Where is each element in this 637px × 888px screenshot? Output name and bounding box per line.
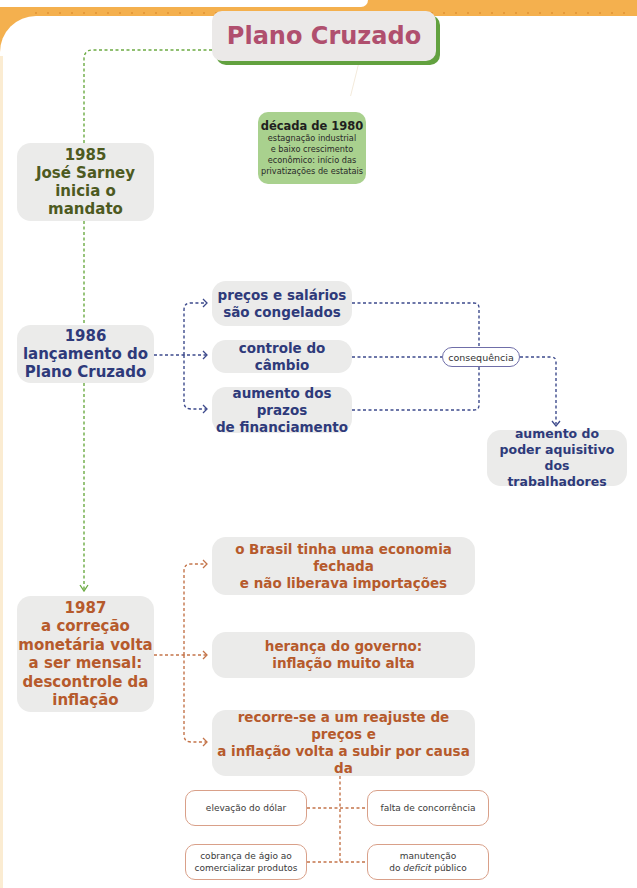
timeline-1986: 1986 lançamento do Plano Cruzado <box>17 325 154 383</box>
timeline-1987-text: 1987 a correção monetária volta a ser me… <box>18 599 152 710</box>
factor-cobranca-agio: cobrança de ágio ao comercializar produt… <box>185 844 307 880</box>
cause-text: recorre-se a um reajuste de preços e a i… <box>212 709 475 777</box>
measure-controle-cambio: controle do câmbio <box>212 340 352 373</box>
result-text: aumento do poder aquisitivo dos trabalha… <box>487 426 627 490</box>
consequence-label: consequência <box>442 347 520 367</box>
consequence-text: consequência <box>448 352 513 363</box>
factor-line2-suffix: público <box>431 863 466 873</box>
measure-text: aumento dos prazos de financiamento <box>212 385 352 436</box>
measure-text: preços e salários são congelados <box>218 287 347 321</box>
cause-text: herança do governo: inflação muito alta <box>265 638 422 672</box>
note-decada-1980: década de 1980 estagnação industrial e b… <box>258 112 366 184</box>
measure-text: controle do câmbio <box>212 340 352 374</box>
orange-arrow-icons <box>203 560 207 746</box>
cause-economia-fechada: o Brasil tinha uma economia fechada e nã… <box>212 537 475 595</box>
page-title-text: Plano Cruzado <box>227 22 421 50</box>
timeline-1986-text: 1986 lançamento do Plano Cruzado <box>23 327 148 381</box>
page-title: Plano Cruzado <box>212 11 436 61</box>
cause-heranca-governo: herança do governo: inflação muito alta <box>212 632 475 678</box>
measure-prazos-financiamento: aumento dos prazos de financiamento <box>212 387 352 433</box>
measure-precos-salarios: preços e salários são congelados <box>212 281 352 326</box>
factor-text: cobrança de ágio ao comercializar produt… <box>195 850 298 874</box>
cause-text: o Brasil tinha uma economia fechada e nã… <box>212 541 475 592</box>
factor-line2-prefix: do <box>389 863 403 873</box>
timeline-1987: 1987 a correção monetária volta a ser me… <box>17 596 154 712</box>
factor-text: falta de concorrência <box>380 802 475 814</box>
timeline-1985-text: 1985 José Sarney inicia o mandato <box>17 146 154 218</box>
timeline-1985: 1985 José Sarney inicia o mandato <box>17 143 154 221</box>
factor-falta-concorrencia: falta de concorrência <box>367 790 489 826</box>
cause-reajuste-precos: recorre-se a um reajuste de preços e a i… <box>212 710 475 776</box>
factor-text: manutenção do deficit público <box>389 850 467 874</box>
result-poder-aquisitivo: aumento do poder aquisitivo dos trabalha… <box>487 430 627 486</box>
green-timeline-connector <box>84 50 212 590</box>
factor-text: elevação do dólar <box>206 802 286 814</box>
factor-elevacao-dolar: elevação do dólar <box>185 790 307 826</box>
factor-deficit-publico: manutenção do deficit público <box>367 844 489 880</box>
factor-line2-italic: deficit <box>403 863 431 873</box>
factor-line1: manutenção <box>400 851 456 861</box>
note-title: década de 1980 <box>261 120 364 133</box>
note-text: estagnação industrial e baixo cresciment… <box>261 133 363 177</box>
